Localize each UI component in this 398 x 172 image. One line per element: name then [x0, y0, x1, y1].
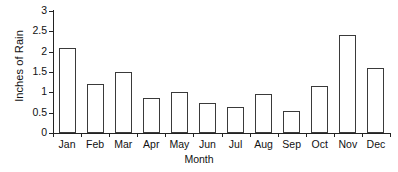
x-label-jun: Jun [193, 138, 221, 151]
y-tick-mark [49, 92, 53, 93]
bar-jul [227, 107, 244, 133]
y-tick-mark [49, 11, 53, 12]
bar-apr [143, 98, 160, 133]
y-tick-label: 0 [41, 126, 47, 139]
y-tick-mark [49, 52, 53, 53]
x-tick-mark [390, 133, 391, 137]
x-label-dec: Dec [362, 138, 390, 151]
y-tick-mark [49, 72, 53, 73]
bar-oct [311, 86, 328, 133]
x-tick-mark [137, 133, 138, 137]
x-tick-mark [278, 133, 279, 137]
x-label-sep: Sep [278, 138, 306, 151]
x-label-aug: Aug [250, 138, 278, 151]
y-tick-label: 2 [41, 45, 47, 58]
x-label-oct: Oct [306, 138, 334, 151]
bar-jun [199, 103, 216, 134]
bar-feb [87, 84, 104, 133]
x-label-mar: Mar [109, 138, 137, 151]
x-label-nov: Nov [334, 138, 362, 151]
y-tick-label: 2.5 [32, 24, 47, 37]
bar-mar [115, 72, 132, 133]
x-label-may: May [165, 138, 193, 151]
x-tick-mark [334, 133, 335, 137]
x-tick-mark [109, 133, 110, 137]
y-tick-mark [49, 31, 53, 32]
bar-sep [283, 111, 300, 133]
rainfall-bar-chart: Inches of Rain 00.511.522.53 JanFebMarAp… [0, 0, 398, 172]
bar-may [171, 92, 188, 133]
bar-jan [59, 48, 76, 133]
x-tick-mark [222, 133, 223, 137]
bar-dec [367, 68, 384, 133]
y-tick-mark [49, 113, 53, 114]
x-label-apr: Apr [137, 138, 165, 151]
x-label-jan: Jan [53, 138, 81, 151]
x-tick-mark [306, 133, 307, 137]
x-tick-mark [81, 133, 82, 137]
x-axis-title: Month [0, 153, 398, 165]
plot-area: 00.511.522.53 [53, 11, 390, 133]
x-tick-mark [53, 133, 54, 137]
x-label-jul: Jul [222, 138, 250, 151]
x-tick-mark [193, 133, 194, 137]
bar-aug [255, 94, 272, 133]
y-tick-label: 1 [41, 85, 47, 98]
bar-nov [339, 35, 356, 133]
x-label-feb: Feb [81, 138, 109, 151]
x-tick-mark [250, 133, 251, 137]
y-tick-label: 3 [41, 4, 47, 17]
x-tick-mark [362, 133, 363, 137]
y-tick-label: 0.5 [32, 106, 47, 119]
x-tick-mark [165, 133, 166, 137]
y-tick-label: 1.5 [32, 65, 47, 78]
